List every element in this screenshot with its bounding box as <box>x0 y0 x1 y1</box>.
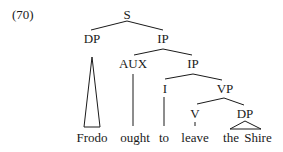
branch-s-ip <box>127 21 163 30</box>
branch-vp-v <box>197 98 224 104</box>
dp2-triangle <box>230 121 261 129</box>
leaf-the: the <box>223 130 239 145</box>
node-ip: IP <box>157 31 169 46</box>
tree-svg: (70) S DP IP AUX IP I VP V DP Frodo ough… <box>0 0 283 152</box>
node-aux: AUX <box>119 56 148 71</box>
branch-ip-vp <box>193 74 222 80</box>
node-i: I <box>163 81 167 96</box>
dp-triangle <box>84 57 100 127</box>
node-s: S <box>123 7 130 22</box>
tree-leaves: Frodo ought to leave the Shire <box>76 130 271 145</box>
branch-vp-dp <box>224 98 244 105</box>
branch-ip-i <box>165 74 193 79</box>
tree-branches <box>84 21 261 129</box>
node-vp: VP <box>217 81 234 96</box>
node-ip-lower: IP <box>187 56 199 71</box>
node-dp-lower: DP <box>237 106 254 121</box>
example-number: (70) <box>12 7 34 22</box>
branch-ip-ip <box>163 49 192 55</box>
leaf-shire: Shire <box>244 130 272 145</box>
node-dp: DP <box>84 31 101 46</box>
branch-ip-aux <box>134 49 163 55</box>
syntax-tree-diagram: (70) S DP IP AUX IP I VP V DP Frodo ough… <box>0 0 283 152</box>
leaf-frodo: Frodo <box>76 130 107 145</box>
tree-nodes: S DP IP AUX IP I VP V DP <box>84 7 254 121</box>
node-v: V <box>190 106 200 121</box>
branch-s-dp <box>91 21 127 30</box>
leaf-to: to <box>159 130 169 145</box>
leaf-ought: ought <box>120 130 150 145</box>
leaf-leave: leave <box>181 130 209 145</box>
